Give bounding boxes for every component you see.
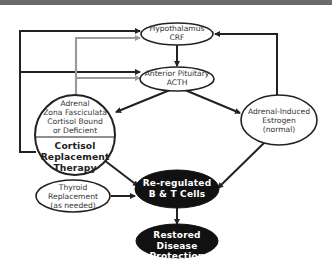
estrogen-line3: (normal) [242,126,316,135]
label-adrenal: Adrenal Zona Fasciculata Cortisol Bound … [38,100,112,136]
label-cortisol-replacement: Cortisol Replacement Therapy [34,141,116,174]
restored-line1: Restored Disease [134,230,220,251]
pituitary-line2: ACTH [138,79,216,88]
thyroid-line3: (as needed) [37,202,109,211]
edge-estrogen-bt [218,143,264,188]
restored-line2: Protection [134,251,220,262]
label-thyroid: Thyroid Replacement (as needed) [37,184,109,211]
label-pituitary: Anterior Pituitary ACTH [138,70,216,88]
edge-pituitary-adrenal [116,90,170,112]
bt-cells-line1: Re-regulated [135,178,219,189]
bt-cells-line2: B & T Cells [135,189,219,200]
edge-pituitary-estrogen [185,90,240,113]
edge-estrogen-hypothalamus [215,34,277,95]
label-bt-cells: Re-regulated B & T Cells [135,178,219,199]
label-restored: Restored Disease Protection [134,230,220,262]
adrenal-line4: or Deficient [38,127,112,136]
label-hypothalamus: Hypothalamus CRF [141,25,213,43]
cortisol-line3: Therapy [34,163,116,174]
edge-cortisol-replacement-feedback [76,38,140,94]
hypothalamus-line2: CRF [141,34,213,43]
label-estrogen: Adrenal-Induced Estrogen (normal) [242,108,316,135]
